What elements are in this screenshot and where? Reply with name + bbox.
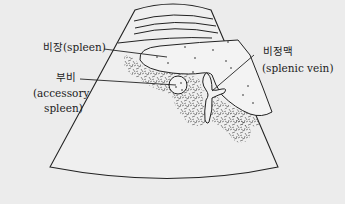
label-accessory-spleen-ko: 부비 — [56, 71, 76, 84]
ultrasound-diagram: 비장(spleen) 부비 (accessory spleen) 비정맥 (sp… — [0, 0, 345, 204]
label-accessory-spleen-en-1: (accessory — [33, 87, 89, 100]
label-spleen: 비장(spleen) — [43, 41, 106, 54]
label-splenic-vein-en: (splenic vein) — [262, 62, 333, 75]
label-splenic-vein-ko: 비정맥 — [263, 45, 293, 58]
label-accessory-spleen-en-2: spleen) — [44, 102, 83, 115]
